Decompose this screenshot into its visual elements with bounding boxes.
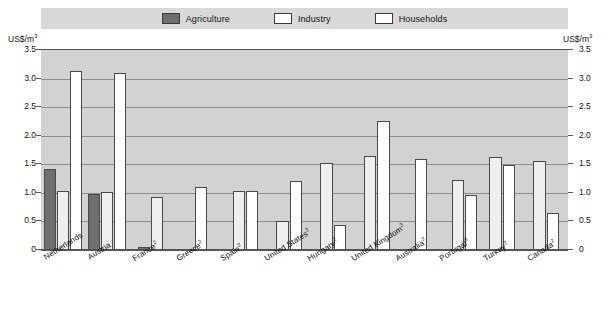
y-axis-unit-right-text: US$/m xyxy=(563,34,589,44)
legend-swatch-industry-icon xyxy=(274,13,292,24)
y-tick-mark-right xyxy=(568,78,573,79)
y-tick-mark-right xyxy=(568,220,573,221)
y-tick-mark-left xyxy=(36,220,41,221)
y-tick-mark-left xyxy=(36,135,41,136)
legend-swatch-households-icon xyxy=(375,13,393,24)
bar-group xyxy=(261,50,305,250)
chart-legend: Agriculture Industry Households xyxy=(41,8,568,29)
bar-group xyxy=(348,50,392,250)
y-tick-label-left: 1.0 xyxy=(14,188,36,197)
bar-industry xyxy=(364,156,376,250)
bar-households xyxy=(114,73,126,250)
legend-label-industry: Industry xyxy=(298,14,331,24)
bar-group xyxy=(41,50,85,250)
water-price-bar-chart: Agriculture Industry Households US$/m3 U… xyxy=(0,0,613,317)
y-tick-mark-right xyxy=(568,249,573,250)
y-axis-unit-left: US$/m3 xyxy=(8,33,37,44)
legend-item-households: Households xyxy=(375,13,448,24)
legend-item-industry: Industry xyxy=(274,13,331,24)
bar-group xyxy=(436,50,480,250)
y-tick-mark-left xyxy=(36,106,41,107)
legend-item-agriculture: Agriculture xyxy=(162,13,230,24)
bar-agriculture xyxy=(44,169,56,250)
y-tick-label-left: 0 xyxy=(14,245,36,254)
y-tick-label-right: 1.0 xyxy=(579,188,591,197)
y-tick-label-left: 2.0 xyxy=(14,131,36,140)
y-tick-mark-left xyxy=(36,192,41,193)
bar-group xyxy=(392,50,436,250)
bar-group xyxy=(524,50,568,250)
bar-households xyxy=(246,191,258,250)
bar-households xyxy=(70,71,82,250)
bar-industry xyxy=(533,161,545,250)
bar-industry xyxy=(489,157,501,250)
y-tick-label-left: 3.0 xyxy=(14,74,36,83)
plot-area xyxy=(41,49,568,250)
y-tick-label-right: 1.5 xyxy=(579,159,591,168)
y-tick-mark-right xyxy=(568,49,573,50)
bar-households xyxy=(503,165,515,250)
legend-swatch-agriculture-icon xyxy=(162,13,180,24)
y-tick-label-left: 0.5 xyxy=(14,216,36,225)
y-tick-label-left: 1.5 xyxy=(14,159,36,168)
bar-group xyxy=(129,50,173,250)
y-axis-unit-right: US$/m3 xyxy=(563,33,592,44)
bar-group xyxy=(217,50,261,250)
y-tick-label-right: 2.5 xyxy=(579,102,591,111)
y-tick-mark-right xyxy=(568,192,573,193)
y-tick-mark-left xyxy=(36,49,41,50)
y-axis-unit-left-exponent: 3 xyxy=(34,33,37,39)
y-tick-mark-right xyxy=(568,135,573,136)
y-tick-mark-left xyxy=(36,78,41,79)
y-tick-label-right: 0.5 xyxy=(579,216,591,225)
y-tick-label-right: 2.0 xyxy=(579,131,591,140)
y-tick-mark-left xyxy=(36,163,41,164)
bar-group xyxy=(85,50,129,250)
y-axis-unit-left-text: US$/m xyxy=(8,34,34,44)
legend-label-households: Households xyxy=(399,14,448,24)
y-tick-label-right: 3.0 xyxy=(579,74,591,83)
legend-label-agriculture: Agriculture xyxy=(186,14,230,24)
y-tick-label-left: 3.5 xyxy=(14,45,36,54)
bar-group xyxy=(305,50,349,250)
y-tick-mark-left xyxy=(36,249,41,250)
y-tick-mark-right xyxy=(568,163,573,164)
bar-group xyxy=(173,50,217,250)
y-tick-label-right: 0 xyxy=(579,245,584,254)
y-tick-mark-right xyxy=(568,106,573,107)
bar-group xyxy=(480,50,524,250)
bar-agriculture xyxy=(88,194,100,250)
y-tick-label-right: 3.5 xyxy=(579,45,591,54)
y-tick-label-left: 2.5 xyxy=(14,102,36,111)
y-axis-unit-right-exponent: 3 xyxy=(589,33,592,39)
